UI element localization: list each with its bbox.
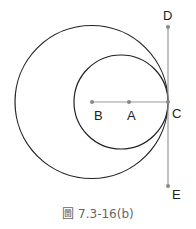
label-c: C — [172, 106, 181, 121]
figure-caption: 圖 7.3-16(b) — [0, 204, 196, 221]
label-b: B — [94, 108, 103, 123]
point-d — [166, 25, 170, 29]
point-b — [90, 100, 94, 104]
point-e — [166, 184, 170, 188]
geometry-diagram: D C B A E — [0, 0, 196, 229]
label-d: D — [163, 8, 172, 23]
label-a: A — [127, 108, 136, 123]
point-a — [127, 100, 131, 104]
point-c — [166, 100, 170, 104]
label-e: E — [172, 187, 181, 202]
